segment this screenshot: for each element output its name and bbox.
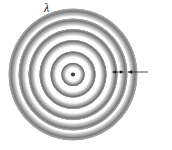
wavelength-symbol-label: λ [44,1,49,15]
wavelength-span-arrow [113,70,124,73]
wavelength-callout [108,64,172,86]
wavefront-figure: λ [0,0,172,150]
point-source-dot [71,72,75,76]
lambda-pointer-arrow [128,70,148,74]
